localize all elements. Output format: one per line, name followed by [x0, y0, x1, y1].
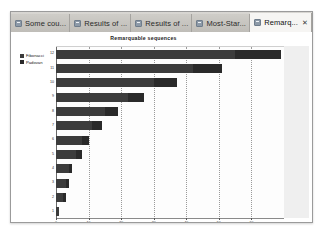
- x-tick-label: 10: [87, 221, 91, 222]
- x-tick-mark: [186, 218, 187, 220]
- page-favicon-icon: [15, 20, 22, 27]
- bar-segment-fibonacci: [56, 164, 69, 173]
- bar-row: [56, 136, 89, 145]
- bar-segment-fibonacci: [56, 136, 82, 145]
- bar-segment-padovan: [69, 164, 72, 173]
- plot-area: [56, 46, 284, 219]
- bar-segment-fibonacci: [56, 64, 193, 73]
- y-tick-label: 6: [40, 137, 54, 141]
- x-axis: 0102030405060: [56, 218, 284, 222]
- y-tick-label: 11: [40, 66, 54, 70]
- bar-segment-fibonacci: [56, 78, 154, 87]
- y-tick-label: 7: [40, 123, 54, 127]
- x-tick-label: 0: [55, 221, 57, 222]
- bar-segment-padovan: [235, 50, 281, 59]
- bar-segment-padovan: [92, 121, 102, 130]
- tab-strip: Some cou... Results of ... Results of ..…: [11, 12, 312, 32]
- y-tick-label: 12: [40, 51, 54, 55]
- tab-label: Results of ...: [84, 19, 127, 28]
- y-tick-label: 5: [40, 152, 54, 156]
- y-tick-label: 9: [40, 94, 54, 98]
- bar-segment-padovan: [63, 193, 66, 202]
- bar-segment-fibonacci: [56, 50, 235, 59]
- tab-label: Results of ...: [145, 19, 188, 28]
- x-tick-mark: [219, 218, 220, 220]
- browser-tab-4[interactable]: Most-Star...: [192, 14, 250, 32]
- chart-title: Remarquable sequences: [11, 35, 294, 41]
- x-tick-label: 60: [249, 221, 253, 222]
- browser-tab-5-active[interactable]: Remarq... ✕: [250, 13, 312, 32]
- bar-segment-padovan: [128, 93, 144, 102]
- x-tick-label: 40: [184, 221, 188, 222]
- bar-row: [56, 50, 281, 59]
- page-favicon-icon: [74, 20, 81, 27]
- x-tick-mark: [89, 218, 90, 220]
- y-tick-label: 2: [40, 195, 54, 199]
- x-tick-mark: [56, 218, 57, 220]
- bar-segment-padovan: [154, 78, 177, 87]
- x-tick-mark: [121, 218, 122, 220]
- page-favicon-icon: [254, 19, 261, 26]
- close-icon[interactable]: ✕: [301, 19, 308, 26]
- bar-segment-fibonacci: [56, 107, 105, 116]
- bar-segment-padovan: [82, 136, 89, 145]
- tab-label: Remarq...: [264, 18, 298, 27]
- bar-row: [56, 179, 69, 188]
- x-tick-label: 20: [119, 221, 123, 222]
- browser-window: Some cou... Results of ... Results of ..…: [10, 11, 313, 223]
- bar-segment-fibonacci: [56, 121, 92, 130]
- browser-tab-1[interactable]: Some cou...: [11, 14, 70, 32]
- page-favicon-icon: [135, 20, 142, 27]
- bar-row: [56, 93, 144, 102]
- bar-segment-padovan: [76, 150, 83, 159]
- x-tick-mark: [154, 218, 155, 220]
- bar-row: [56, 64, 222, 73]
- y-tick-label: 3: [40, 180, 54, 184]
- tab-label: Most-Star...: [206, 19, 246, 28]
- y-tick-label: 4: [40, 166, 54, 170]
- bar-row: [56, 78, 177, 87]
- legend-swatch: [20, 54, 24, 58]
- plot-right-margin: [284, 46, 309, 218]
- bar-segment-fibonacci: [56, 179, 66, 188]
- bar-segment-padovan: [66, 179, 69, 188]
- bar-segment-fibonacci: [56, 150, 76, 159]
- tab-label: Some cou...: [25, 19, 66, 28]
- y-axis: 121110987654321: [39, 46, 54, 218]
- bar-row: [56, 207, 59, 216]
- bar-row: [56, 164, 72, 173]
- bars-layer: [56, 47, 284, 219]
- y-tick-label: 8: [40, 109, 54, 113]
- bar-segment-fibonacci: [56, 207, 59, 216]
- x-tick-mark: [251, 218, 252, 220]
- y-tick-label: 1: [40, 209, 54, 213]
- bar-segment-fibonacci: [56, 93, 128, 102]
- bar-row: [56, 193, 66, 202]
- page-content: Remarquable sequences Fibonacci Padovan …: [11, 32, 312, 222]
- bar-segment-padovan: [105, 107, 118, 116]
- x-tick-label: 30: [152, 221, 156, 222]
- bar-segment-padovan: [193, 64, 222, 73]
- browser-tab-3[interactable]: Results of ...: [131, 14, 192, 32]
- bar-row: [56, 107, 118, 116]
- browser-tab-2[interactable]: Results of ...: [70, 14, 131, 32]
- page-favicon-icon: [196, 20, 203, 27]
- x-tick-label: 50: [217, 221, 221, 222]
- y-tick-label: 10: [40, 80, 54, 84]
- legend-swatch: [20, 60, 24, 64]
- bar-row: [56, 121, 102, 130]
- bar-row: [56, 150, 82, 159]
